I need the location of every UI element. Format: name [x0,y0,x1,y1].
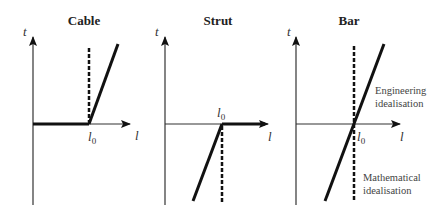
cable-panel: Cable t l l0 [23,13,139,205]
engineering-line [89,44,118,124]
mathematical-note: Mathematical [363,172,421,183]
t-axis-label: t [287,24,291,39]
engineering-line [193,124,222,201]
bar-panel: Bar t l l0 Engineering idealisation Math… [287,13,427,205]
l-axis-label: l [135,128,139,143]
engineering-note: Engineering [375,85,427,96]
l-axis-label: l [400,129,404,144]
l0-label: l0 [357,129,366,146]
cable-title: Cable [68,13,101,28]
strut-title: Strut [204,13,234,28]
strut-panel: Strut t l l0 [155,13,272,205]
t-axis-label: t [23,24,27,39]
engineering-note: idealisation [375,98,424,109]
l-axis-label: l [268,129,272,144]
diagram-canvas: Cable t l l0 Strut t l l0 Bar t l l0 Eng… [0,0,446,218]
tension-length-diagrams: Cable t l l0 Strut t l l0 Bar t l l0 Eng… [0,0,446,218]
l0-label: l0 [217,105,226,122]
t-axis-label: t [155,24,159,39]
mathematical-note: idealisation [363,185,412,196]
l0-label: l0 [88,129,97,146]
bar-title: Bar [339,13,360,28]
